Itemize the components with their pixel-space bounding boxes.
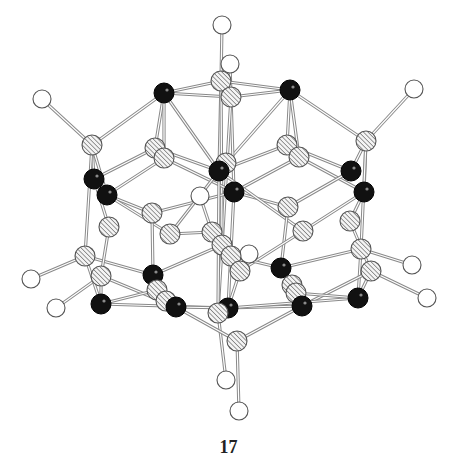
metal-atom-highlight [229,303,232,306]
metal-atom-highlight [365,187,368,190]
bond-M7-X12 [288,171,351,207]
metal-atom [166,297,186,317]
hydrogen-atom [405,80,423,98]
metal-atom-highlight [165,88,168,91]
metal-atom [97,185,117,205]
metal-atom-highlight [154,270,157,273]
metal-atom-highlight [282,263,285,266]
framework-atom [289,147,309,167]
framework-atom [99,217,119,237]
framework-atom [278,197,298,217]
framework-atom [75,246,95,266]
metal-atom [280,80,300,100]
framework-atom [91,266,111,286]
bond-M9-X17 [153,245,222,275]
framework-atom [340,211,360,231]
metal-atom [341,161,361,181]
hydrogen-atom [230,402,248,420]
hydrogen-atom [418,289,436,307]
hydrogen-atom [22,270,40,288]
framework-atom [208,303,228,323]
hydrogen-atom [191,187,209,205]
metal-atom-highlight [359,293,362,296]
metal-atom [271,258,291,278]
metal-atom-highlight [95,174,98,177]
metal-atom [292,296,312,316]
metal-atom [209,161,229,181]
compound-label: 17 [0,437,457,458]
metal-atom [224,182,244,202]
hydrogen-atom [47,299,65,317]
metal-atom [84,169,104,189]
framework-atom [293,221,313,241]
metal-atom-highlight [220,166,223,169]
hydrogen-atom [213,16,231,34]
molecular-structure-diagram [0,0,457,474]
framework-atom [154,148,174,168]
framework-atom [361,261,381,281]
hydrogen-atom [217,371,235,389]
framework-atom [142,203,162,223]
bond-M14-X29 [237,306,302,341]
bond-M1-X3 [92,93,164,145]
metal-atom-highlight [177,302,180,305]
framework-atom [227,331,247,351]
framework-atom [82,135,102,155]
bond-X22-M10 [281,249,361,268]
bond-X3-X20 [85,145,92,256]
metal-atom-highlight [108,190,111,193]
framework-atom [230,261,250,281]
hydrogen-atom [33,90,51,108]
hydrogen-atom [221,55,239,73]
framework-atom [351,239,371,259]
metal-atom [154,83,174,103]
metal-atom-highlight [352,166,355,169]
metal-atom-highlight [102,299,105,302]
framework-atom [356,131,376,151]
metal-atom [348,288,368,308]
framework-atom [160,224,180,244]
atoms-layer [22,16,436,420]
hydrogen-atom [403,256,421,274]
bond-H4-X9 [366,89,414,141]
framework-atom [221,87,241,107]
metal-atom-highlight [303,301,306,304]
metal-atom-highlight [291,85,294,88]
bond-M2-X9 [290,90,366,141]
metal-atom [91,294,111,314]
hydrogen-atom [240,245,258,263]
metal-atom-highlight [235,187,238,190]
metal-atom [354,182,374,202]
